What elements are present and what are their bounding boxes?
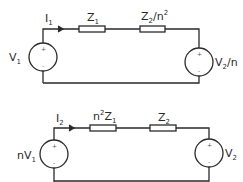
- resistor-label-n2z1: n2Z1: [93, 110, 116, 125]
- circuit-1-wires: [43, 29, 199, 83]
- resistor-n2z1: [90, 125, 116, 131]
- resistor-label-z2: Z2: [158, 112, 170, 126]
- current-label-i2: I2: [56, 113, 64, 127]
- resistor-label-z1: Z1: [87, 12, 99, 26]
- plus-sign: +: [52, 143, 57, 149]
- resistor-z1: [79, 26, 105, 32]
- source-label-v2-over-n: V2/n: [215, 57, 238, 71]
- minus-sign: -: [198, 68, 200, 74]
- current-label-i1: I1: [45, 13, 53, 27]
- plus-sign: +: [197, 51, 202, 57]
- resistor-label-z2-over-n2: Z2/n2: [141, 10, 168, 25]
- minus-sign: -: [42, 63, 44, 69]
- circuit-2-wires: [54, 128, 209, 182]
- source-label-nv1: nV1: [17, 150, 36, 164]
- source-label-v2: V2: [225, 148, 237, 162]
- resistor-z2-over-n2: [140, 26, 165, 32]
- minus-sign: -: [53, 160, 55, 166]
- current-arrow-i2-icon: [69, 125, 74, 131]
- plus-sign: +: [207, 142, 212, 148]
- source-label-v1: V1: [9, 52, 21, 66]
- circuit-diagram: [0, 0, 243, 182]
- minus-sign: -: [208, 159, 210, 165]
- plus-sign: +: [41, 46, 46, 52]
- current-arrow-i1-icon: [58, 26, 63, 32]
